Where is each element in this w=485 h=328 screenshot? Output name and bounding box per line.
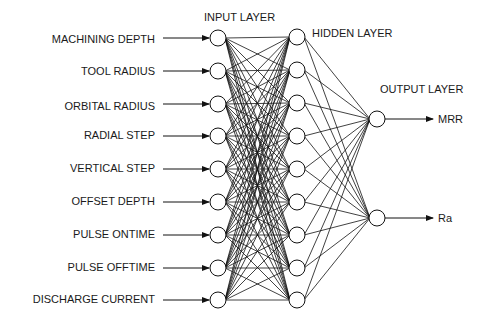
hidden-node	[289, 194, 305, 210]
input-label: PULSE OFFTIME	[68, 261, 155, 273]
hidden-node	[289, 29, 305, 45]
input-node	[210, 96, 226, 112]
input-node	[210, 227, 226, 243]
hidden-output-edge	[304, 218, 370, 268]
hidden-output-edge	[304, 37, 370, 119]
input-label: DISCHARGE CURRENT	[33, 293, 155, 305]
hidden-node	[289, 227, 305, 243]
output-label-ra: Ra	[438, 212, 452, 224]
hidden-node	[289, 260, 305, 276]
input-node	[210, 292, 226, 308]
input-label: MACHINING DEPTH	[52, 33, 155, 45]
input-node	[210, 161, 226, 177]
input-label: VERTICAL STEP	[70, 162, 155, 174]
output-label-mrr: MRR	[438, 113, 463, 125]
input-label: TOOL RADIUS	[81, 65, 155, 77]
input-node	[210, 260, 226, 276]
input-label: OFFSET DEPTH	[71, 195, 155, 207]
input-label: PULSE ONTIME	[73, 228, 155, 240]
hidden-output-edge	[304, 119, 370, 235]
input-node	[210, 30, 226, 46]
input-node	[210, 128, 226, 144]
hidden-output-edge	[304, 103, 370, 119]
hidden-output-edge	[304, 70, 370, 119]
hidden-output-edge	[304, 119, 370, 300]
hidden-layer-title: HIDDEN LAYER	[312, 27, 392, 39]
output-layer-title: OUTPUT LAYER	[380, 83, 463, 95]
hidden-output-edge	[304, 119, 370, 268]
hidden-output-edge	[304, 119, 370, 202]
neural-network-diagram: INPUT LAYER HIDDEN LAYER OUTPUT LAYER MA…	[0, 0, 485, 328]
input-layer-title: INPUT LAYER	[204, 11, 275, 23]
hidden-output-edge	[304, 119, 370, 136]
input-label: RADIAL STEP	[84, 129, 155, 141]
hidden-node	[289, 62, 305, 78]
hidden-output-edge	[304, 218, 370, 235]
input-hidden-edge	[225, 37, 290, 38]
output-node	[369, 210, 385, 226]
output-node	[369, 111, 385, 127]
hidden-output-edge	[304, 218, 370, 300]
input-node	[210, 63, 226, 79]
input-label: ORBITAL RADIUS	[65, 100, 155, 112]
hidden-node	[289, 161, 305, 177]
hidden-node	[289, 128, 305, 144]
input-node	[210, 194, 226, 210]
hidden-node	[289, 95, 305, 111]
hidden-node	[289, 292, 305, 308]
